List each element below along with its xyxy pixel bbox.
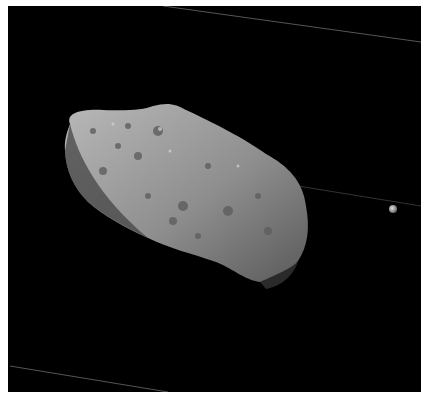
scan-line-right <box>298 186 421 206</box>
space-photo-frame <box>8 6 421 392</box>
space-photo <box>8 6 421 392</box>
scan-line-bottom <box>10 366 168 392</box>
asteroid <box>65 104 308 289</box>
moon <box>389 205 397 213</box>
scan-line-top <box>163 6 421 42</box>
